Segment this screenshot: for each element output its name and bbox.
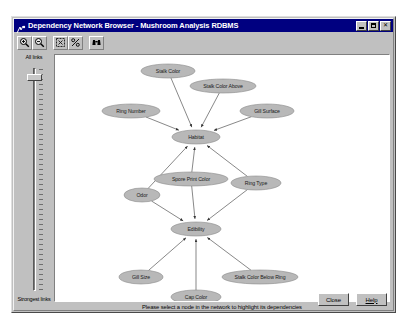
graph-node[interactable]: Odor (124, 188, 160, 202)
toolbar-zoom-group (17, 36, 47, 50)
zoom-percent-icon[interactable] (68, 36, 83, 50)
node-label: Stalk Color Below Ring (235, 274, 286, 280)
minimize-button[interactable] (356, 21, 367, 31)
dependency-network-diagram: Stalk ColorStalk Color AboveRing NumberG… (55, 55, 389, 301)
find-binoculars-icon[interactable] (89, 36, 104, 50)
toolbar-fit-group (53, 36, 83, 50)
dialog-buttons: Close Help (318, 293, 387, 306)
node-label: Ring Number (116, 108, 146, 114)
close-button-label: Close (326, 297, 341, 303)
graph-edge (207, 145, 247, 176)
node-label: Gill Size (132, 274, 150, 280)
graph-nodes: Stalk ColorStalk Color AboveRing NumberG… (102, 64, 298, 301)
slider-thumb[interactable] (27, 74, 42, 81)
node-label: Stalk Color (156, 68, 181, 74)
graph-node[interactable]: Cap Color (171, 290, 221, 301)
slider-ticks (39, 69, 43, 290)
graph-edge (214, 117, 251, 131)
title-bar[interactable]: Dependency Network Browser - Mushroom An… (14, 19, 393, 32)
graph-node[interactable]: Gill Surface (240, 104, 294, 118)
graph-node[interactable]: Habitat (172, 130, 220, 144)
graph-edge (171, 78, 192, 127)
zoom-out-icon[interactable] (32, 36, 47, 50)
graph-edge (207, 190, 247, 221)
graph-node[interactable]: Ring Number (102, 104, 160, 118)
node-label: Cap Color (185, 294, 208, 300)
node-label: Odor (136, 192, 148, 198)
link-strength-slider[interactable]: All links Strongest links (16, 54, 52, 302)
toolbar (14, 33, 393, 52)
node-label: Stalk Color Above (203, 83, 243, 89)
node-label: Gill Surface (254, 108, 280, 114)
slider-top-label: All links (16, 54, 52, 61)
graph-node[interactable]: Ring Type (231, 176, 281, 190)
slider-bottom-label: Strongest links (16, 296, 52, 303)
slider-track[interactable] (24, 64, 44, 293)
network-graph-canvas[interactable]: Stalk ColorStalk Color AboveRing NumberG… (54, 54, 390, 302)
window-title: Dependency Network Browser - Mushroom An… (28, 19, 356, 32)
graph-node[interactable]: Spore Print Color (154, 172, 228, 186)
graph-node[interactable]: Gill Size (119, 270, 163, 284)
graph-edge (192, 147, 195, 172)
graph-edge (207, 237, 251, 270)
node-label: Habitat (188, 134, 204, 140)
zoom-fit-icon[interactable] (53, 36, 68, 50)
graph-node[interactable]: Edibility (171, 222, 221, 236)
graph-node[interactable]: Stalk Color Below Ring (222, 270, 298, 284)
help-button[interactable]: Help (356, 293, 387, 306)
graph-edge (151, 201, 183, 221)
graph-node[interactable]: Stalk Color (141, 64, 195, 78)
application-window: Dependency Network Browser - Mushroom An… (11, 16, 396, 313)
graph-edge (149, 238, 186, 271)
graph-node[interactable]: Stalk Color Above (190, 79, 256, 93)
close-icon: ✕ (383, 22, 388, 28)
window-controls: ✕ (356, 21, 391, 31)
toolbar-find-group (89, 36, 104, 50)
network-browser-icon (16, 21, 26, 31)
graph-edge (192, 186, 195, 219)
close-button[interactable]: Close (318, 293, 349, 306)
node-label: Spore Print Color (172, 176, 210, 182)
graph-edge (201, 93, 219, 127)
maximize-button[interactable] (368, 21, 379, 31)
node-label: Ring Type (245, 180, 268, 186)
client-area: All links Strongest links (14, 52, 393, 310)
node-label: Edibility (188, 226, 205, 232)
close-window-button[interactable]: ✕ (380, 21, 391, 31)
screenshot-root: Dependency Network Browser - Mushroom An… (0, 0, 409, 325)
graph-edge (146, 117, 179, 130)
zoom-in-icon[interactable] (17, 36, 32, 50)
slider-groove (33, 68, 36, 291)
help-button-label: Help (366, 297, 378, 303)
